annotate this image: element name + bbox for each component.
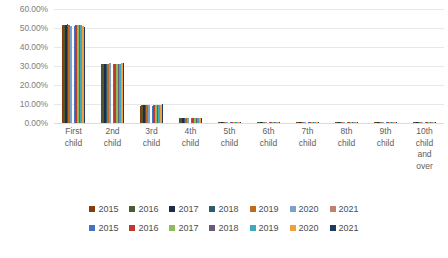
plot-wrapper: 60.00%50.00%40.00%30.00%20.00%10.00%0.00…	[0, 0, 448, 132]
legend-swatch-icon	[330, 225, 336, 231]
x-axis-category-line: child	[249, 138, 288, 150]
legend-swatch-icon	[169, 225, 175, 231]
y-axis-tick-label: 20.00%	[20, 81, 48, 90]
legend-item[interactable]: 2017	[169, 204, 198, 214]
legend-swatch-icon	[129, 225, 135, 231]
y-axis-tick-label: 50.00%	[20, 24, 48, 33]
legend-item[interactable]: 2018	[209, 204, 238, 214]
x-axis-category-line: child	[93, 138, 132, 150]
legend-label: 2019	[259, 204, 279, 214]
x-axis-category-label: 4thchild	[171, 126, 210, 172]
x-axis-category-label: Firstchild	[54, 126, 93, 172]
legend-label: 2021	[339, 204, 359, 214]
legend-item[interactable]: 2017	[169, 223, 198, 233]
bar	[162, 104, 164, 123]
legend-row-1: 2015201620172018201920202021	[0, 199, 448, 218]
bar-chart: 60.00%50.00%40.00%30.00%20.00%10.00%0.00…	[0, 0, 448, 258]
plot-area	[54, 9, 444, 123]
legend-swatch-icon	[290, 206, 296, 212]
x-axis-category-line: child	[171, 138, 210, 150]
legend-label: 2018	[218, 223, 238, 233]
legend-item[interactable]: 2019	[250, 223, 279, 233]
bar-cluster	[327, 9, 366, 123]
x-axis-category-line: child	[54, 138, 93, 150]
chart-legend: 2015201620172018201920202021 20152016201…	[0, 199, 448, 237]
bar-cluster	[132, 9, 171, 123]
bar-cluster	[54, 9, 93, 123]
y-axis-tick-label: 10.00%	[20, 100, 48, 109]
x-axis-category-line: child	[366, 138, 405, 150]
bar-cluster	[249, 9, 288, 123]
legend-swatch-icon	[330, 206, 336, 212]
x-axis-category-line: 9th	[366, 126, 405, 138]
x-axis-category-line: 5th	[210, 126, 249, 138]
legend-item[interactable]: 2020	[290, 204, 319, 214]
bar-cluster	[288, 9, 327, 123]
bar	[84, 27, 86, 123]
bar-cluster	[366, 9, 405, 123]
bar	[435, 122, 437, 123]
legend-swatch-icon	[89, 206, 95, 212]
y-axis-tick-label: 30.00%	[20, 62, 48, 71]
legend-item[interactable]: 2016	[129, 204, 158, 214]
x-axis-category-line: child	[210, 138, 249, 150]
y-axis-tick-label: 40.00%	[20, 43, 48, 52]
legend-swatch-icon	[209, 225, 215, 231]
gridline	[54, 123, 444, 124]
x-axis-category-line: 2nd	[93, 126, 132, 138]
x-axis-category-line: First	[54, 126, 93, 138]
x-axis-category-line: 10th	[405, 126, 444, 138]
x-axis-category-line: over	[405, 161, 444, 173]
x-axis-category-line: child	[327, 138, 366, 150]
bar-cluster	[93, 9, 132, 123]
legend-label: 2016	[138, 204, 158, 214]
legend-item[interactable]: 2021	[330, 204, 359, 214]
legend-label: 2017	[178, 223, 198, 233]
y-axis-tick-label: 0.00%	[24, 119, 48, 128]
legend-item[interactable]: 2015	[89, 204, 118, 214]
x-axis-category-label: 8thchild	[327, 126, 366, 172]
x-axis-category-label: 6thchild	[249, 126, 288, 172]
legend-item[interactable]: 2019	[250, 204, 279, 214]
bar-cluster	[405, 9, 444, 123]
x-axis: Firstchild2ndchild3rdchild4thchild5thchi…	[54, 126, 444, 172]
legend-item[interactable]: 2021	[330, 223, 359, 233]
x-axis-category-label: 3rdchild	[132, 126, 171, 172]
bar	[357, 122, 359, 123]
legend-label: 2021	[339, 223, 359, 233]
legend-item[interactable]: 2016	[129, 223, 158, 233]
legend-row-2: 2015201620172018201920202021	[0, 218, 448, 237]
legend-item[interactable]: 2015	[89, 223, 118, 233]
y-axis: 60.00%50.00%40.00%30.00%20.00%10.00%0.00…	[0, 0, 52, 132]
x-axis-category-line: 8th	[327, 126, 366, 138]
x-axis-category-line: child	[405, 138, 444, 150]
legend-swatch-icon	[209, 206, 215, 212]
bar	[201, 118, 203, 123]
x-axis-category-label: 9thchild	[366, 126, 405, 172]
legend-label: 2015	[98, 223, 118, 233]
legend-swatch-icon	[89, 225, 95, 231]
x-axis-category-line: 6th	[249, 126, 288, 138]
legend-swatch-icon	[169, 206, 175, 212]
y-axis-tick-label: 60.00%	[20, 5, 48, 14]
x-axis-category-label: 10thchildandover	[405, 126, 444, 172]
x-axis-category-label: 7thchild	[288, 126, 327, 172]
bar-cluster	[210, 9, 249, 123]
x-axis-category-line: 3rd	[132, 126, 171, 138]
legend-item[interactable]: 2018	[209, 223, 238, 233]
x-axis-category-line: child	[132, 138, 171, 150]
bar	[318, 122, 320, 123]
legend-swatch-icon	[129, 206, 135, 212]
x-axis-category-line: 4th	[171, 126, 210, 138]
bar	[396, 122, 398, 123]
legend-label: 2020	[299, 204, 319, 214]
legend-swatch-icon	[250, 225, 256, 231]
bar	[240, 122, 242, 123]
x-axis-category-label: 2ndchild	[93, 126, 132, 172]
x-axis-category-line: child	[288, 138, 327, 150]
legend-label: 2020	[299, 223, 319, 233]
legend-swatch-icon	[250, 206, 256, 212]
legend-swatch-icon	[290, 225, 296, 231]
legend-item[interactable]: 2020	[290, 223, 319, 233]
bar	[279, 122, 281, 123]
